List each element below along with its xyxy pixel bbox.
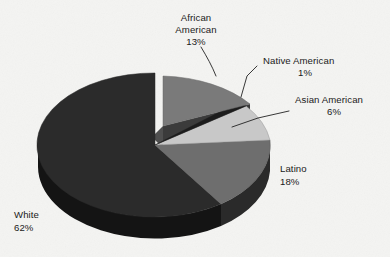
pie-chart-figure: African American 13% Native American 1% …	[0, 0, 390, 257]
pie-top-faces	[37, 73, 270, 217]
pie-chart-svg: African American 13% Native American 1% …	[0, 0, 390, 257]
label-african-american-name-line1: African	[181, 12, 212, 23]
label-african-american-percent: 13%	[186, 36, 206, 47]
label-white-name: White	[14, 209, 39, 220]
label-asian-american-percent: 6%	[327, 106, 341, 117]
label-native-american-name: Native American	[263, 55, 334, 66]
label-latino-name: Latino	[280, 163, 307, 174]
label-white-percent: 62%	[14, 222, 34, 233]
label-african-american-name-line2: American	[175, 24, 216, 35]
label-latino-percent: 18%	[280, 176, 300, 187]
label-asian-american-name: Asian American	[295, 94, 363, 105]
label-native-american-percent: 1%	[298, 67, 312, 78]
